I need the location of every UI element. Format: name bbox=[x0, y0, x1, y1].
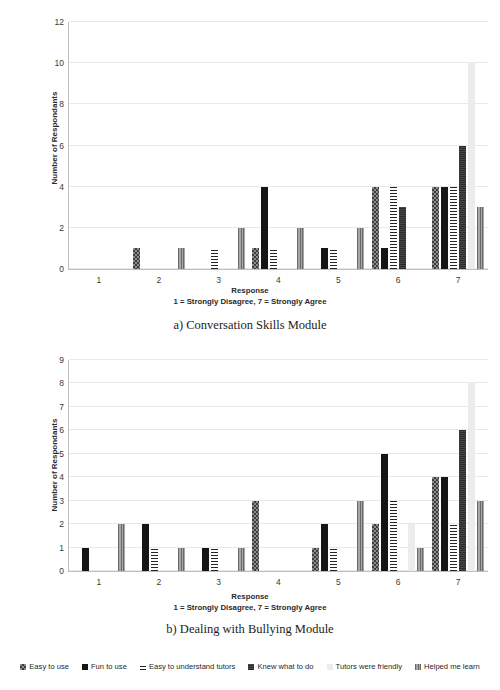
bar-a-7-s4[interactable] bbox=[468, 63, 475, 269]
x-axis-tick-a-7: 7 bbox=[456, 275, 461, 285]
x-axis-tick-a-1: 1 bbox=[97, 275, 102, 285]
bar-a-7-s1[interactable] bbox=[441, 187, 448, 269]
bar-b-5-s0[interactable] bbox=[312, 548, 319, 571]
x-axis-tick-b-2: 2 bbox=[156, 577, 161, 587]
horizontal-stripe-swatch bbox=[140, 664, 146, 670]
bar-b-1-s1[interactable] bbox=[82, 548, 89, 571]
bar-a-3-s2[interactable] bbox=[211, 248, 218, 269]
bar-a-5-s1[interactable] bbox=[321, 248, 328, 269]
x-axis-tick-a-6: 6 bbox=[396, 275, 401, 285]
bar-b-7-s5[interactable] bbox=[477, 501, 484, 571]
bar-b-3-s2[interactable] bbox=[211, 548, 218, 571]
solid-dark-swatch bbox=[82, 664, 88, 670]
bar-b-5-s5[interactable] bbox=[357, 501, 364, 571]
bar-b-7-s1[interactable] bbox=[441, 477, 448, 571]
bar-group-b-5: 5 bbox=[308, 360, 368, 571]
x-axis-title-b: Response 1 = Strongly Disagree, 7 = Stro… bbox=[0, 592, 500, 613]
bar-b-7-s0[interactable] bbox=[432, 477, 439, 571]
bar-b-7-s4[interactable] bbox=[468, 383, 475, 571]
y-axis-tick-b-1: 1 bbox=[59, 543, 64, 553]
bar-b-6-s5[interactable] bbox=[417, 548, 424, 571]
bar-b-2-s2[interactable] bbox=[151, 548, 158, 571]
x-axis-tick-b-4: 4 bbox=[276, 577, 281, 587]
legend-item-3[interactable]: Knew what to do bbox=[248, 662, 313, 671]
bar-b-2-s5[interactable] bbox=[178, 548, 185, 571]
bar-group-a-6: 6 bbox=[368, 22, 428, 269]
bar-a-4-s5[interactable] bbox=[297, 228, 304, 269]
x-axis-title-a: Response 1 = Strongly Disagree, 7 = Stro… bbox=[0, 286, 500, 307]
vertical-stripe-swatch bbox=[415, 664, 421, 670]
bar-a-6-s1[interactable] bbox=[381, 248, 388, 269]
plot-canvas-b: 01234567891234567 bbox=[68, 360, 488, 572]
y-axis-label-a: Number of Respondants bbox=[50, 92, 59, 185]
legend-label-1: Fun to use bbox=[91, 662, 127, 671]
legend-label-2: Easy to understand tutors bbox=[149, 662, 236, 671]
plot-area-b: 01234567891234567 bbox=[68, 360, 488, 572]
legend-item-2[interactable]: Easy to understand tutors bbox=[140, 662, 236, 671]
bar-a-4-s0[interactable] bbox=[252, 248, 259, 269]
chart-panel-conversation-skills: Number of Respondants 0246810121234567 R… bbox=[0, 8, 500, 338]
x-axis-tick-a-4: 4 bbox=[276, 275, 281, 285]
bar-b-7-s2[interactable] bbox=[450, 524, 457, 571]
x-axis-sublabel-a: 1 = Strongly Disagree, 7 = Strongly Agre… bbox=[0, 297, 500, 308]
y-axis-tick-a-4: 4 bbox=[59, 182, 64, 192]
bar-b-3-s5[interactable] bbox=[238, 548, 245, 571]
bar-a-6-s0[interactable] bbox=[372, 187, 379, 269]
y-axis-tick-a-12: 12 bbox=[55, 17, 64, 27]
bar-b-7-s3[interactable] bbox=[459, 430, 466, 571]
bar-group-a-1: 1 bbox=[69, 22, 129, 269]
bar-b-6-s2[interactable] bbox=[390, 501, 397, 571]
legend-item-4[interactable]: Tutors were friendly bbox=[327, 662, 402, 671]
bar-b-5-s2[interactable] bbox=[330, 548, 337, 571]
bar-series-container-b: 1234567 bbox=[69, 360, 488, 571]
bar-group-b-3: 3 bbox=[189, 360, 249, 571]
bar-b-2-s1[interactable] bbox=[142, 524, 149, 571]
x-axis-label-b: Response bbox=[0, 592, 500, 603]
bar-a-4-s2[interactable] bbox=[270, 248, 277, 269]
y-axis-tick-a-2: 2 bbox=[59, 223, 64, 233]
bar-b-5-s1[interactable] bbox=[321, 524, 328, 571]
y-axis-tick-b-6: 6 bbox=[59, 425, 64, 435]
bar-b-3-s1[interactable] bbox=[202, 548, 209, 571]
bar-a-2-s0[interactable] bbox=[133, 248, 140, 269]
bar-b-6-s1[interactable] bbox=[381, 454, 388, 571]
bar-group-b-6: 6 bbox=[368, 360, 428, 571]
legend-item-5[interactable]: Helped me learn bbox=[415, 662, 480, 671]
chart-panel-dealing-with-bullying: Number of Respondants 01234567891234567 … bbox=[0, 350, 500, 650]
bar-b-1-s5[interactable] bbox=[118, 524, 125, 571]
x-axis-tick-b-3: 3 bbox=[216, 577, 221, 587]
bar-a-5-s5[interactable] bbox=[357, 228, 364, 269]
bar-b-6-s4[interactable] bbox=[408, 524, 415, 571]
x-axis-tick-a-3: 3 bbox=[216, 275, 221, 285]
legend-label-0: Easy to use bbox=[29, 662, 69, 671]
bar-a-6-s3[interactable] bbox=[399, 207, 406, 269]
legend-item-0[interactable]: Easy to use bbox=[20, 662, 69, 671]
checkerboard-swatch bbox=[20, 664, 26, 670]
bar-a-6-s2[interactable] bbox=[390, 187, 397, 269]
bar-group-a-7: 7 bbox=[428, 22, 488, 269]
legend-label-3: Knew what to do bbox=[257, 662, 313, 671]
bar-a-7-s3[interactable] bbox=[459, 146, 466, 270]
bar-a-7-s0[interactable] bbox=[432, 187, 439, 269]
bar-group-b-4: 4 bbox=[249, 360, 309, 571]
legend-item-1[interactable]: Fun to use bbox=[82, 662, 127, 671]
y-axis-tick-b-4: 4 bbox=[59, 472, 64, 482]
bar-b-6-s0[interactable] bbox=[372, 524, 379, 571]
legend-label-5: Helped me learn bbox=[424, 662, 480, 671]
bar-a-2-s5[interactable] bbox=[178, 248, 185, 269]
bar-a-5-s2[interactable] bbox=[330, 248, 337, 269]
bar-a-3-s5[interactable] bbox=[238, 228, 245, 269]
bar-group-b-7: 7 bbox=[428, 360, 488, 571]
legend-label-4: Tutors were friendly bbox=[336, 662, 402, 671]
bar-group-a-3: 3 bbox=[189, 22, 249, 269]
panel-caption-a: a) Conversation Skills Module bbox=[0, 318, 500, 333]
figure-survey-results: Number of Respondants 0246810121234567 R… bbox=[0, 0, 500, 690]
x-axis-tick-a-2: 2 bbox=[156, 275, 161, 285]
y-axis-tick-b-8: 8 bbox=[59, 378, 64, 388]
bar-a-7-s2[interactable] bbox=[450, 187, 457, 269]
bar-a-7-s5[interactable] bbox=[477, 207, 484, 269]
bar-b-4-s0[interactable] bbox=[252, 501, 259, 571]
dark-gray-swatch bbox=[248, 664, 254, 670]
x-axis-tick-b-6: 6 bbox=[396, 577, 401, 587]
bar-a-4-s1[interactable] bbox=[261, 187, 268, 269]
